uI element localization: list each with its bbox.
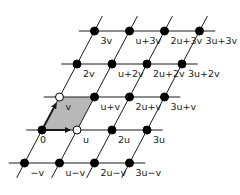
lattice-point: [143, 126, 151, 134]
lattice-point: [143, 60, 151, 68]
lattice-diagram: [0, 0, 240, 195]
lattice-point: [91, 93, 99, 101]
lattice-point: [38, 126, 46, 134]
lattice-point: [21, 159, 29, 167]
lattice-point: [91, 27, 99, 35]
lattice-point: [161, 27, 169, 35]
lattice-point: [126, 93, 134, 101]
lattice-point: [91, 159, 99, 167]
lattice-point: [73, 60, 81, 68]
lattice-point: [126, 27, 134, 35]
lattice-point: [196, 27, 204, 35]
lattice-lines: [9, 16, 216, 178]
lattice-point: [108, 126, 116, 134]
lattice-point: [126, 159, 134, 167]
open-lattice-point: [73, 126, 81, 134]
lattice-point: [161, 93, 169, 101]
lattice-point: [178, 60, 186, 68]
lattice-point: [56, 159, 64, 167]
open-lattice-point: [56, 93, 64, 101]
lattice-point: [108, 60, 116, 68]
